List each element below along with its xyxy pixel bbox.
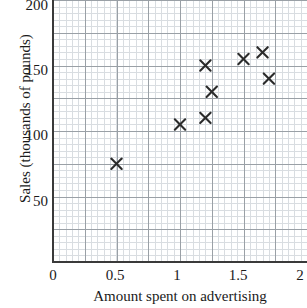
data-point xyxy=(207,87,217,97)
x-axis-title: Amount spent on advertising xyxy=(53,288,307,305)
data-point xyxy=(111,159,121,169)
x-axis-tick-label: 1 xyxy=(157,268,197,283)
data-points-layer xyxy=(53,0,307,262)
x-axis-tick-label: 1.5 xyxy=(218,268,258,283)
data-point xyxy=(200,113,210,123)
plot-area xyxy=(53,0,307,262)
data-point xyxy=(257,47,267,57)
x-axis-tick-label: 2 xyxy=(280,268,307,283)
x-axis-tick-label: 0 xyxy=(33,268,73,283)
y-axis-title: Sales (thousands of pounds) xyxy=(17,4,34,234)
data-point xyxy=(200,60,210,70)
data-point xyxy=(238,54,248,64)
x-axis-line xyxy=(52,261,307,263)
scatter-chart: 200 150 100 50 0 0.5 1 1.5 2 Amount spen… xyxy=(0,0,307,308)
x-axis-tick-label: 0.5 xyxy=(95,268,135,283)
data-point xyxy=(175,119,185,129)
data-point xyxy=(264,73,274,83)
y-axis-line xyxy=(52,0,54,263)
